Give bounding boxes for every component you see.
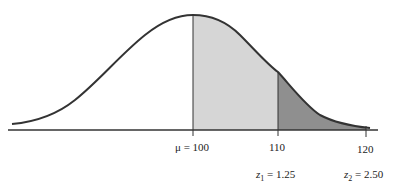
tick-label-120: 120: [357, 143, 374, 155]
normal-curve: [12, 15, 370, 128]
normal-curve-plot: [0, 0, 398, 191]
tick-label-mean: μ = 100: [175, 141, 209, 153]
z1-label: z1 = 1.25: [256, 168, 295, 183]
z2-label: z2 = 2.50: [344, 168, 383, 183]
shaded-region-mean-to-110: [193, 15, 278, 130]
shaded-region-110-to-120: [278, 72, 366, 130]
tick-label-110: 110: [269, 141, 285, 153]
